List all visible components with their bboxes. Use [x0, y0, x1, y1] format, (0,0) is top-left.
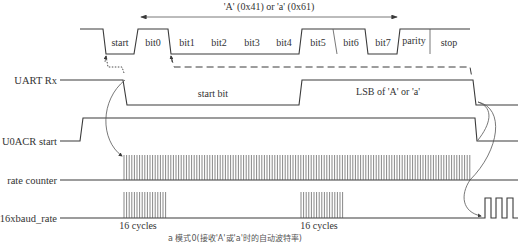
cycles-label-2: 16 cycles — [300, 220, 338, 231]
cycles-label-1: 16 cycles — [119, 220, 157, 231]
bit-3: bit3 — [244, 37, 260, 48]
u0acr-start-label: U0ACR start — [2, 136, 57, 147]
bit-start: start — [111, 37, 128, 48]
bit-parity: parity — [402, 35, 425, 46]
bit-0: bit0 — [145, 37, 161, 48]
bit-6: bit6 — [343, 37, 359, 48]
bit-7: bit7 — [375, 37, 391, 48]
character-span-arrow: 'A' (0x41) or 'a' (0x61) — [141, 1, 397, 17]
character-title: 'A' (0x41) or 'a' (0x61) — [224, 1, 315, 13]
bit-5: bit5 — [310, 37, 326, 48]
bit-4: bit4 — [276, 37, 292, 48]
bit-stop: stop — [441, 37, 458, 48]
uart-rx-label: UART Rx — [14, 75, 57, 86]
lsb-label: LSB of 'A' or 'a' — [356, 86, 420, 97]
rate-counter-signal: rate counter — [7, 155, 518, 186]
uart-rx-signal: UART Rx start bit LSB of 'A' or 'a' — [14, 75, 518, 105]
bit-2: bit2 — [211, 37, 227, 48]
causality-arrow-stop-1 — [478, 102, 489, 140]
serial-frame-waveform: start bit0 bit1 bit2 bit3 bit4 bit5 bit6… — [80, 29, 472, 78]
figure-caption: a 模式0(接收'A'或'a'时的自动波特率) — [168, 233, 302, 243]
bit-1: bit1 — [179, 37, 195, 48]
baud16-signal: 16xbaud_rate 16 cycles 16 cycles — [0, 192, 518, 231]
start-bit-label: start bit — [198, 88, 228, 99]
u0acr-start-signal: U0ACR start — [2, 118, 518, 147]
uart-autobaud-timing-diagram: 'A' (0x41) or 'a' (0x61) start bit0 bit1… — [0, 0, 518, 244]
baud16-label: 16xbaud_rate — [0, 213, 57, 224]
rate-counter-label: rate counter — [7, 175, 57, 186]
